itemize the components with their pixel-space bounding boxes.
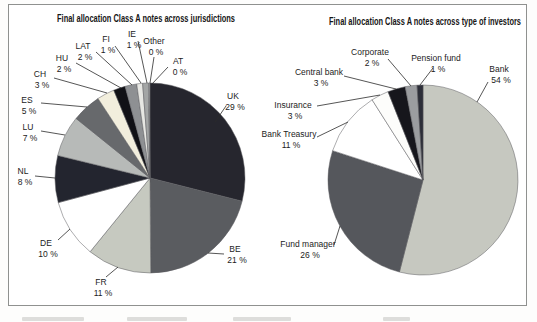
slice-label-name: BE — [229, 244, 241, 254]
slice-label-name: Bank Treasury — [262, 129, 318, 139]
slice-label-percent: 0 % — [173, 67, 188, 77]
slice-label-name: UK — [227, 91, 239, 101]
slice-label-name: DE — [40, 238, 52, 248]
slice-label-name: AT — [173, 56, 183, 66]
slice-label-percent: 7 % — [23, 133, 38, 143]
slice-label-percent: 3 % — [35, 80, 50, 90]
slice-label-name: LU — [23, 122, 34, 132]
slice-label-name: ES — [21, 95, 33, 105]
chart-title-investors: Final allocation Class A notes across ty… — [329, 16, 521, 27]
slice-label-name: LAT — [76, 41, 91, 51]
slice-label-percent: 21 % — [227, 255, 247, 265]
slice-label-name: CH — [34, 69, 46, 79]
slice-label-percent: 54 % — [491, 75, 511, 85]
slice-label-percent: 1 % — [127, 40, 142, 50]
scanned-figure: Final allocation Class A notes across ju… — [0, 0, 537, 322]
chart-title-jurisdictions: Final allocation Class A notes across ju… — [57, 13, 235, 24]
slice-label-name: Corporate — [351, 47, 389, 57]
slice-label-percent: 2 % — [78, 52, 93, 62]
slice-label-percent: 3 % — [288, 111, 303, 121]
slice-label-percent: 1 % — [101, 45, 116, 55]
slice-label-percent: 11 % — [282, 140, 301, 150]
slice-label-name: IE — [128, 29, 136, 39]
slice-label-name: Other — [143, 36, 164, 46]
slice-label-percent: 11 % — [94, 288, 113, 298]
cropped-caption-fragment — [22, 317, 84, 321]
cropped-caption-fragment — [127, 317, 187, 321]
slice-label-name: Bank — [489, 64, 509, 74]
slice-label-percent: 26 % — [300, 250, 320, 260]
slice-label-percent: 10 % — [38, 249, 58, 259]
cropped-caption-fragment — [233, 317, 291, 321]
slice-label-percent: 2 % — [57, 64, 72, 74]
slice-label-percent: 0 % — [149, 47, 164, 57]
slice-label-name: HU — [56, 53, 68, 63]
slice-label-percent: 5 % — [22, 106, 37, 116]
slice-label-name: Fund manager — [280, 239, 335, 249]
slice-label-name: Insurance — [274, 100, 312, 110]
slice-label-name: FR — [95, 277, 106, 287]
slice-label-percent: 29 % — [225, 102, 245, 112]
slice-label-percent: 1 % — [431, 64, 446, 74]
slice-label-name: Pension fund — [411, 53, 461, 63]
slice-label-percent: 3 % — [314, 78, 329, 88]
slice-label-name: NL — [18, 166, 29, 176]
slice-label-percent: 2 % — [365, 58, 380, 68]
slice-label-percent: 8 % — [18, 177, 33, 187]
slice-label-name: FI — [102, 34, 110, 44]
slice-label-name: Central bank — [295, 67, 344, 77]
cropped-caption-fragment — [383, 317, 410, 321]
